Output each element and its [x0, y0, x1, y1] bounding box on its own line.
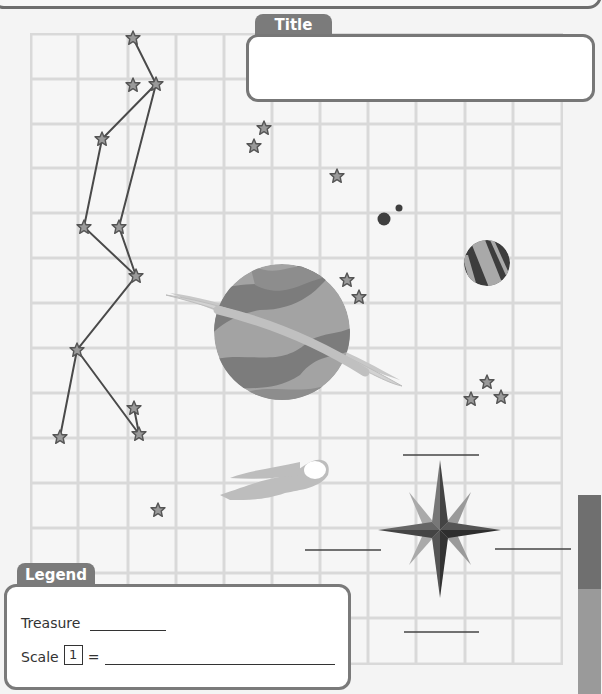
legend-treasure-row: Treasure	[21, 615, 166, 631]
title-input-box[interactable]	[246, 34, 595, 102]
compass-rose-icon	[378, 460, 501, 598]
treasure-label: Treasure	[21, 615, 80, 631]
edge-strip-dark	[578, 495, 601, 589]
scale-equals: =	[88, 649, 100, 665]
legend-tab: Legend	[17, 563, 95, 586]
legend-box: Treasure Scale 1 =	[4, 584, 351, 690]
title-tab: Title	[255, 14, 332, 36]
treasure-blank[interactable]	[90, 616, 166, 631]
scale-label: Scale	[21, 649, 59, 665]
edge-strip-light	[578, 589, 601, 694]
small-striped-planet	[462, 240, 512, 290]
asteroids	[378, 205, 403, 226]
constellation	[60, 38, 156, 437]
scale-unit-box: 1	[64, 645, 83, 665]
scale-blank[interactable]	[105, 650, 335, 665]
legend-scale-row: Scale 1 =	[21, 645, 335, 665]
comet	[220, 460, 329, 500]
